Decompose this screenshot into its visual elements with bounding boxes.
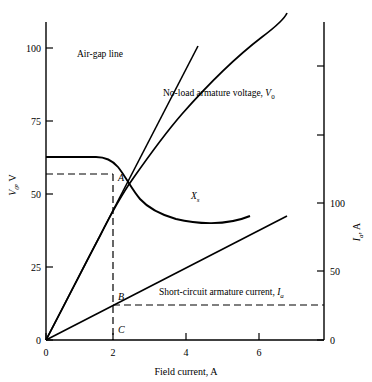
- tick-label-x-0: 0: [44, 347, 49, 358]
- axis-left-title-unit: , V: [7, 173, 18, 186]
- series-short-circuit-current: [46, 216, 287, 340]
- tick-label-x-6: 6: [257, 347, 262, 358]
- annotation-no-load-voltage: No-load armature voltage, V0: [163, 88, 275, 101]
- axis-left-tick-labels: 100 75 50 25 0: [26, 43, 41, 346]
- tick-label-left-0: 0: [36, 335, 41, 346]
- axis-bottom: [46, 333, 324, 340]
- annotation-no-load-voltage-subscript: 0: [271, 93, 275, 101]
- annotation-xs-subscript: s: [197, 196, 200, 204]
- annotation-short-circuit-current-subscript: a: [280, 292, 284, 300]
- chart-svg: 100 75 50 25 0 V0, V 0 2 4 6 Field curre…: [0, 0, 372, 382]
- tick-label-x-2: 2: [111, 347, 116, 358]
- tick-label-right-0: 0: [330, 335, 335, 346]
- svg-text:Ia, A: Ia, A: [351, 222, 365, 242]
- annotation-synchronous-reactance: Xs: [190, 191, 200, 204]
- construction-guides: [46, 174, 324, 340]
- tick-label-right-100: 100: [330, 198, 345, 209]
- tick-label-x-4: 4: [184, 347, 189, 358]
- marker-label-C: C: [118, 324, 125, 335]
- axis-bottom-title: Field current, A: [154, 366, 218, 377]
- marker-label-B: B: [118, 291, 124, 302]
- annotation-short-circuit-current: Short-circuit armature current, Ia: [159, 287, 284, 300]
- axis-left: [46, 22, 53, 340]
- axis-right-title: Ia, A: [351, 222, 365, 242]
- axis-bottom-tick-labels: 0 2 4 6: [44, 347, 262, 358]
- svg-text:V0, V: V0, V: [7, 173, 21, 195]
- annotation-short-circuit-current-text: Short-circuit armature current,: [159, 287, 277, 297]
- axis-right-tick-labels: 100 50 0: [330, 198, 345, 346]
- axis-right: [317, 22, 324, 340]
- series-synchronous-reactance: [46, 157, 250, 223]
- axis-left-title: V0, V: [7, 173, 21, 195]
- figure-container: 100 75 50 25 0 V0, V 0 2 4 6 Field curre…: [0, 0, 372, 382]
- tick-label-left-50: 50: [31, 189, 41, 200]
- annotation-air-gap-line: Air-gap line: [77, 49, 123, 59]
- annotation-no-load-voltage-text: No-load armature voltage,: [163, 88, 265, 98]
- tick-label-left-100: 100: [26, 43, 41, 54]
- axis-right-title-unit: , A: [351, 222, 362, 234]
- marker-label-A: A: [117, 172, 125, 183]
- tick-label-left-25: 25: [31, 262, 41, 273]
- tick-label-left-75: 75: [31, 116, 41, 127]
- tick-label-right-50: 50: [330, 266, 340, 277]
